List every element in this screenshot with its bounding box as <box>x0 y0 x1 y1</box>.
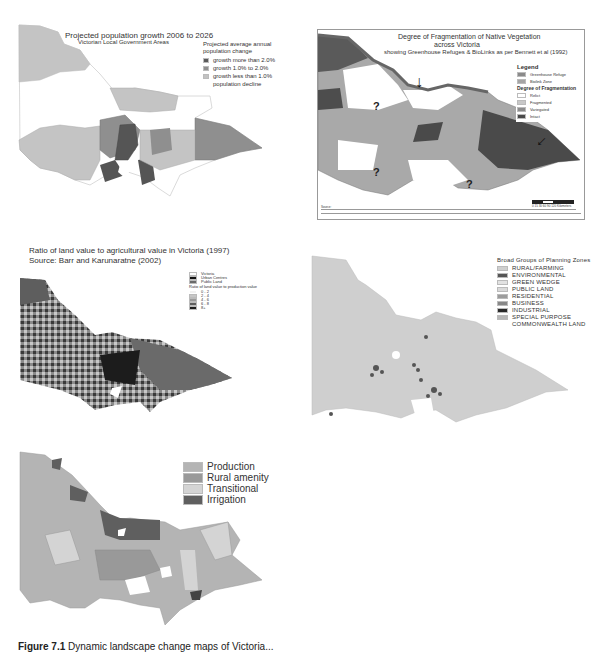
legend-item: growth 1.0% to 2.0% <box>203 65 283 71</box>
legend-swatch <box>517 107 526 112</box>
legend-item: BUSINESS <box>497 300 590 306</box>
legend-swatch <box>203 74 209 79</box>
map-planning-zones: Broad Groups of Planning Zones RURAL/FAR… <box>306 240 612 425</box>
legend-swatch <box>497 273 508 278</box>
scale-bar-label: 0 15 30 60 90 120 Kilometers <box>532 204 571 208</box>
legend-item: Transitional <box>183 484 269 494</box>
map-vegetation-fragmentation: Degree of Fragmentation of Native Vegeta… <box>317 29 585 220</box>
legend-item: PUBLIC LAND <box>497 286 590 292</box>
source-fine-print <box>321 209 576 210</box>
legend-vegetation: Legend Greenhouse Refuge Biolink Zone De… <box>516 63 577 122</box>
legend-item: INDUSTRIAL <box>497 307 590 313</box>
source-fine-print <box>321 213 581 214</box>
map-title: Degree of Fragmentation of Native Vegeta… <box>398 33 540 40</box>
legend-item: population decline <box>203 81 283 87</box>
legend-swatch <box>497 308 508 313</box>
legend-swatch <box>517 93 526 98</box>
map-population-growth: Projected population growth 2006 to 2026… <box>0 0 306 215</box>
map-title: Ratio of land value to agricultural valu… <box>29 246 229 255</box>
victoria-map-land-value <box>0 240 306 425</box>
legend-item: Relict <box>517 93 576 98</box>
legend-title: Projected average annual population chan… <box>203 41 283 54</box>
figure-caption-text: Dynamic landscape change maps of Victori… <box>68 641 273 652</box>
legend-swatch <box>517 79 526 84</box>
victoria-map-vegetation <box>318 30 584 219</box>
legend-title: Ratio of land value to production value <box>189 285 257 289</box>
legend-swatch <box>203 82 209 87</box>
legend-land-value: Victoria Urban Centres Public Land Ratio… <box>189 272 257 310</box>
legend-title: Broad Groups of Planning Zones <box>497 257 590 263</box>
legend-item: RURAL/FARMING <box>497 265 590 271</box>
legend-item: GREEN WEDGE <box>497 279 590 285</box>
arrow-icon: ↓ <box>415 73 423 91</box>
legend-item: Irrigation <box>183 495 269 505</box>
legend-swatch <box>497 322 508 327</box>
legend-item: RESIDENTIAL <box>497 293 590 299</box>
map-land-value-ratio: Ratio of land value to agricultural valu… <box>0 240 306 425</box>
question-mark-annotation: ? <box>373 100 380 112</box>
question-mark-annotation: ? <box>373 166 380 178</box>
map-subtitle: Source: Barr and Karunaratne (2002) <box>29 256 161 265</box>
legend-swatch <box>497 294 508 299</box>
legend-swatch <box>183 484 203 494</box>
legend-rural-land-types: Production Rural amenity Transitional Ir… <box>183 462 269 506</box>
legend-swatch <box>183 462 203 472</box>
legend-heading: Legend <box>517 64 576 70</box>
map-title-line2: across Victoria <box>434 41 480 48</box>
legend-planning-zones: Broad Groups of Planning Zones RURAL/FAR… <box>497 257 590 328</box>
legend-swatch <box>517 72 526 77</box>
legend-item: Rural amenity <box>183 473 269 483</box>
legend-item: SPECIAL PURPOSE <box>497 314 590 320</box>
legend-item: Variegated <box>517 107 576 112</box>
scale-bar: 0 15 30 60 90 120 Kilometers <box>532 200 574 208</box>
legend-item: growth more than 2.0% <box>203 57 283 63</box>
legend-swatch <box>189 306 197 310</box>
map-rural-land-types: Production Rural amenity Transitional Ir… <box>0 440 306 630</box>
legend-swatch <box>497 315 508 320</box>
legend-swatch <box>497 280 508 285</box>
figure-caption: Figure 7.1 Dynamic landscape change maps… <box>18 641 274 652</box>
legend-item: Greenhouse Refuge <box>517 72 576 77</box>
map-subtitle: showing Greenhouse Refuges & BioLinks as… <box>384 49 567 55</box>
legend-swatch <box>517 114 526 119</box>
legend-item: Intact <box>517 114 576 119</box>
legend-item: Biolink Zone <box>517 79 576 84</box>
legend-swatch <box>497 266 508 271</box>
legend-item: ENVIRONMENTAL <box>497 272 590 278</box>
legend-item: COMMONWEALTH LAND <box>497 321 590 327</box>
legend-sub-heading: Degree of Fragmentation <box>517 86 576 91</box>
legend-swatch <box>203 58 209 63</box>
legend-item: growth less than 1.0% <box>203 73 283 79</box>
legend-item: Production <box>183 462 269 472</box>
figure-label: Figure 7.1 <box>18 641 65 652</box>
legend-swatch <box>203 66 209 71</box>
legend-item: 8+ <box>189 306 257 310</box>
legend-swatch <box>497 301 508 306</box>
legend-swatch <box>183 473 203 483</box>
legend-population: Projected average annual population chan… <box>203 41 283 89</box>
map-subtitle: Victorian Local Government Areas <box>78 39 169 45</box>
legend-swatch <box>497 287 508 292</box>
question-mark-annotation: ? <box>466 178 473 190</box>
legend-item: Fragmented <box>517 100 576 105</box>
legend-swatch <box>183 495 203 505</box>
legend-swatch <box>517 100 526 105</box>
